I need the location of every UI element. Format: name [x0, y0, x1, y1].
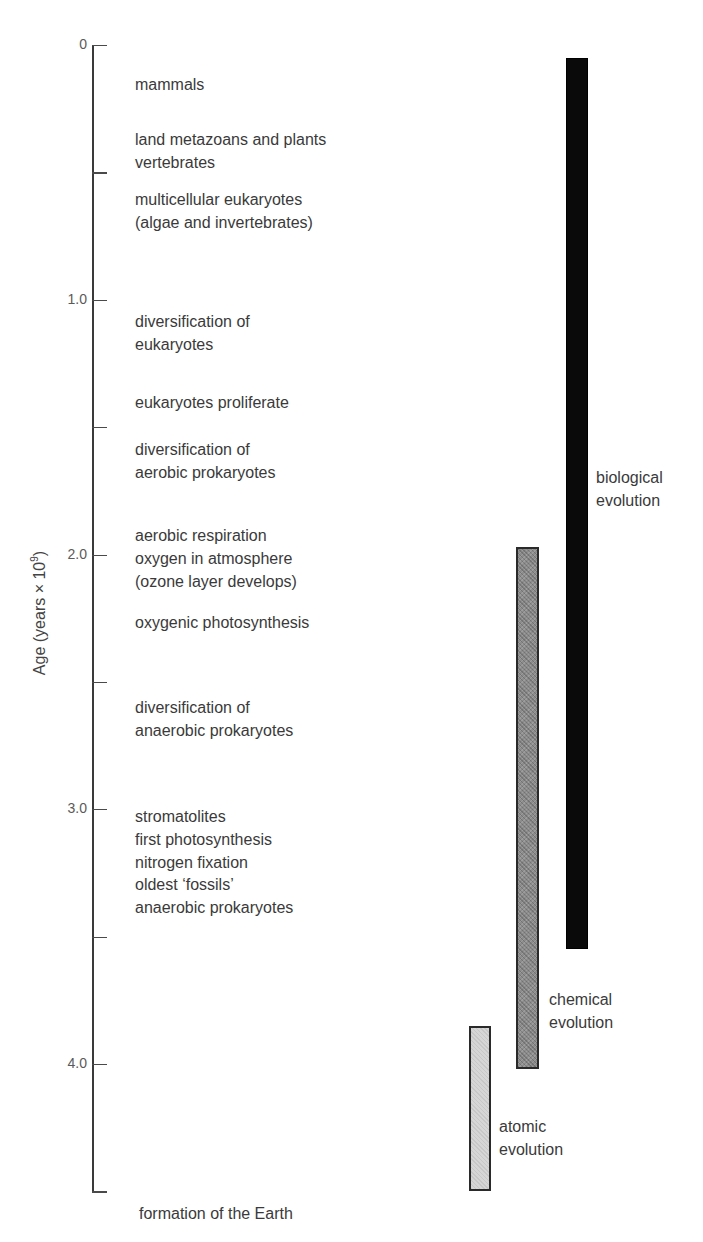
event-label-line: first photosynthesis [135, 829, 293, 852]
event-label-line: (algae and invertebrates) [135, 212, 313, 235]
y-axis-title: Age (years × 109) [31, 551, 49, 675]
event-label-line: diversification of [135, 439, 276, 462]
y-axis-title-exponent: 9 [29, 556, 40, 562]
major-tick [92, 809, 107, 810]
event-label-line: mammals [135, 74, 204, 97]
evolution-timeline-figure: Age (years × 109) 01.02.03.04.0 mammalsl… [0, 0, 703, 1242]
event-label: aerobic respirationoxygen in atmosphere(… [135, 525, 297, 593]
event-label-line: multicellular eukaryotes [135, 189, 313, 212]
tick-label: 4.0 [68, 1056, 87, 1070]
event-label: eukaryotes proliferate [135, 392, 289, 415]
event-label-line: oxygenic photosynthesis [135, 612, 309, 635]
major-tick [92, 300, 107, 301]
event-label-line: land metazoans and plants [135, 129, 326, 152]
major-tick [92, 45, 107, 46]
event-label: diversification ofeukaryotes [135, 311, 250, 357]
major-tick [92, 1064, 107, 1065]
bar-label-line: evolution [549, 1012, 613, 1035]
minor-tick [92, 172, 107, 173]
bar-label-line: evolution [596, 490, 663, 513]
event-label-line: diversification of [135, 311, 250, 334]
formation-of-earth-label: formation of the Earth [139, 1203, 293, 1226]
event-label-line: eukaryotes [135, 334, 250, 357]
bar-label-line: biological [596, 467, 663, 490]
tick-label: 1.0 [68, 292, 87, 306]
event-label-line: anaerobic prokaryotes [135, 897, 293, 920]
bar-label-line: chemical [549, 989, 613, 1012]
event-label: stromatolitesfirst photosynthesisnitroge… [135, 806, 293, 920]
tick-label: 0 [79, 37, 87, 51]
y-axis-title-suffix: ) [31, 551, 48, 556]
event-label: diversification ofanaerobic prokaryotes [135, 697, 293, 743]
event-label-line: oxygen in atmosphere [135, 548, 297, 571]
event-label-line: vertebrates [135, 152, 326, 175]
chemical-evolution-bar [516, 547, 539, 1069]
event-label: land metazoans and plantsvertebrates [135, 129, 326, 175]
tick-label: 3.0 [68, 801, 87, 815]
chemical-evolution-label: chemicalevolution [549, 989, 613, 1035]
event-label-line: eukaryotes proliferate [135, 392, 289, 415]
biological-evolution-label: biologicalevolution [596, 467, 663, 513]
minor-tick [92, 427, 107, 428]
y-axis-title-text: Age (years × 10 [31, 562, 48, 675]
y-axis-line [92, 45, 94, 1191]
event-label-line: (ozone layer develops) [135, 571, 297, 594]
event-label-line: diversification of [135, 697, 293, 720]
event-label-line: nitrogen fixation [135, 852, 293, 875]
bar-label-line: evolution [499, 1139, 563, 1162]
event-label: oxygenic photosynthesis [135, 612, 309, 635]
event-label: diversification ofaerobic prokaryotes [135, 439, 276, 485]
minor-tick [92, 937, 107, 938]
event-label-line: aerobic prokaryotes [135, 462, 276, 485]
minor-tick [92, 1191, 107, 1192]
tick-label: 2.0 [68, 547, 87, 561]
event-label: multicellular eukaryotes(algae and inver… [135, 189, 313, 235]
major-tick [92, 555, 107, 556]
atomic-evolution-bar [469, 1026, 491, 1192]
bar-label-line: atomic [499, 1116, 563, 1139]
biological-evolution-bar [566, 58, 588, 950]
event-label-line: oldest ‘fossils’ [135, 874, 293, 897]
event-label: mammals [135, 74, 204, 97]
event-label-line: anaerobic prokaryotes [135, 720, 293, 743]
minor-tick [92, 682, 107, 683]
event-label-line: formation of the Earth [139, 1203, 293, 1226]
event-label-line: stromatolites [135, 806, 293, 829]
event-label-line: aerobic respiration [135, 525, 297, 548]
atomic-evolution-label: atomicevolution [499, 1116, 563, 1162]
